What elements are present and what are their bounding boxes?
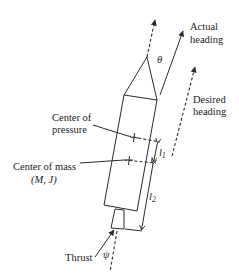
rocket-axis-line xyxy=(147,20,155,57)
bottom-dimension-line xyxy=(125,229,142,231)
rocket-diagram: Actual heading Desired heading Center of… xyxy=(0,0,239,278)
l1-label: l1 xyxy=(159,147,166,160)
center-mass-label-2: (M, J) xyxy=(31,174,57,186)
desired-heading-label-1: Desired xyxy=(193,94,226,105)
l1-dimension-arrow xyxy=(154,143,158,162)
actual-heading-label-1: Actual xyxy=(190,21,218,32)
center-mass-leader xyxy=(80,160,124,163)
actual-heading-arrow xyxy=(160,31,183,95)
rocket-nozzle xyxy=(111,209,124,229)
thrust-label: Thrust xyxy=(65,252,92,263)
center-pressure-leader xyxy=(93,125,128,136)
l2-label: l2 xyxy=(149,191,156,204)
center-mass-label-1: Center of mass xyxy=(13,161,76,172)
desired-heading-label-2: heading xyxy=(193,106,227,117)
center-pressure-label-1: Center of xyxy=(52,112,92,123)
thrust-axis-line xyxy=(110,231,117,272)
center-pressure-marker xyxy=(130,133,138,142)
actual-heading-label-2: heading xyxy=(190,34,224,45)
psi-label: ψ xyxy=(103,249,110,260)
desired-heading-arrow xyxy=(172,67,195,156)
center-pressure-label-2: pressure xyxy=(52,124,87,135)
center-mass-marker xyxy=(125,156,133,165)
theta-label: θ xyxy=(157,54,162,65)
rocket-nose xyxy=(124,57,157,100)
